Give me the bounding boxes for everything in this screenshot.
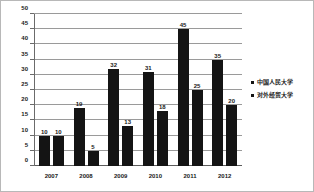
square-marker-icon [251,94,254,97]
x-axis-label: 2007 [45,173,58,179]
legend-item-label: 中国人民大学 [257,79,293,86]
x-axis-label: 2011 [183,173,196,179]
y-axis-label: 25 [21,81,28,87]
x-axis-label: 2010 [149,173,162,179]
bar-value-label: 10 [55,129,62,135]
bar-value-label: 10 [41,129,48,135]
bar: 35 [212,60,223,166]
bar: 5 [88,151,99,166]
bar-value-label: 13 [124,119,131,125]
bar-group: 10102007 [39,14,64,166]
y-axis-label: 45 [21,20,28,26]
y-axis-label: 10 [21,127,28,133]
bar-groups: 1010200719520083213200931182010452520113… [34,14,242,166]
y-axis-label: 5 [25,142,28,148]
plot-area: 05101520253035404550 1010200719520083213… [34,14,242,166]
bar: 31 [143,72,154,166]
legend-item[interactable]: 中国人民大学 [251,79,311,86]
bar: 18 [157,111,168,166]
bar-value-label: 32 [110,62,117,68]
bar-group: 45252011 [178,14,203,166]
bar-value-label: 18 [159,104,166,110]
bar: 13 [122,126,133,166]
bar: 10 [53,136,64,166]
bar-chart-figure: 05101520253035404550 1010200719520083213… [0,0,314,192]
bar-group: 35202012 [212,14,237,166]
square-marker-icon [251,81,254,84]
y-axis-label: 50 [21,5,28,11]
y-axis-label: 0 [25,157,28,163]
x-axis-label: 2012 [218,173,231,179]
bar-value-label: 35 [214,53,221,59]
bar: 25 [192,90,203,166]
bar-value-label: 45 [180,22,187,28]
bar: 19 [74,108,85,166]
legend-item-label: 对外经贸大学 [257,92,293,99]
bar-value-label: 31 [145,65,152,71]
legend-item[interactable]: 对外经贸大学 [251,92,311,99]
bar: 10 [39,136,50,166]
legend: 中国人民大学对外经贸大学 [251,79,311,105]
bar-value-label: 25 [194,83,201,89]
x-axis-label: 2009 [114,173,127,179]
bar-group: 1952008 [74,14,99,166]
bar: 32 [108,69,119,166]
y-axis-label: 30 [21,66,28,72]
y-axis-label: 15 [21,111,28,117]
bar-value-label: 20 [228,98,235,104]
bar-value-label: 5 [91,144,94,150]
y-axis-label: 35 [21,51,28,57]
bar-value-label: 19 [76,101,83,107]
bar: 45 [178,29,189,166]
y-axis-label: 40 [21,35,28,41]
bar-group: 32132009 [108,14,133,166]
bar-group: 31182010 [143,14,168,166]
bar: 20 [226,105,237,166]
x-axis-label: 2008 [79,173,92,179]
y-axis-label: 20 [21,96,28,102]
